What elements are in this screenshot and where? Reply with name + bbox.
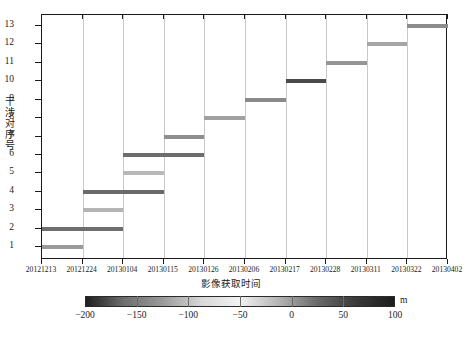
y-axis-tick-label: 5 (0, 167, 14, 177)
x-axis-tick-mark-top (41, 14, 42, 19)
y-axis-tick-label: 13 (0, 20, 14, 30)
gridline (204, 15, 205, 258)
interferogram-pair-bar (123, 171, 164, 175)
gridline (326, 15, 327, 258)
interferogram-pair-bar (326, 61, 367, 65)
interferogram-pair-bar (367, 42, 408, 46)
y-axis-tick-label: 3 (0, 204, 14, 214)
y-axis-tick-label: 11 (0, 57, 14, 67)
interferogram-pair-bar (42, 245, 83, 249)
interferogram-pair-bar (286, 79, 327, 83)
colorbar-unit-label: m (400, 295, 407, 306)
x-axis-tick-mark (447, 259, 448, 264)
x-axis-tick-mark-top (82, 14, 83, 19)
gridline (83, 15, 84, 258)
x-axis-tick-mark (406, 259, 407, 264)
colorbar-tick-mark (188, 296, 189, 307)
x-axis-tick-mark-top (366, 14, 367, 19)
gridline (123, 15, 124, 258)
colorbar-tick-mark (240, 296, 241, 307)
colorbar-tick-label: −200 (62, 310, 108, 321)
colorbar-tick-mark (137, 296, 138, 307)
x-axis-tick-mark-top (447, 14, 448, 19)
interferogram-pair-bar (123, 153, 204, 157)
x-axis-tick-mark (122, 259, 123, 264)
interferogram-pair-bar (407, 24, 448, 28)
x-axis-tick-mark (41, 259, 42, 264)
y-axis-tick-label: 2 (0, 223, 14, 233)
y-axis-tick-label: 4 (0, 186, 14, 196)
x-axis-tick-mark (163, 259, 164, 264)
x-axis-tick-mark (203, 259, 204, 264)
x-axis-tick-mark-top (122, 14, 123, 19)
y-axis-tick-label: 10 (0, 75, 14, 85)
x-axis-tick-mark (82, 259, 83, 264)
x-axis-tick-mark-top (244, 14, 245, 19)
y-axis-tick-label: 9 (0, 94, 14, 104)
interferogram-pair-bar (83, 190, 164, 194)
plot-area (41, 14, 447, 259)
interferogram-pair-bar (204, 116, 245, 120)
x-axis-tick-mark (285, 259, 286, 264)
interferogram-pair-bar (245, 98, 286, 102)
colorbar-tick-label: 100 (372, 310, 418, 321)
x-axis-tick-mark (325, 259, 326, 264)
gridline (407, 15, 408, 258)
colorbar-container (85, 296, 395, 307)
y-axis-tick-label: 12 (0, 38, 14, 48)
colorbar-tick-label: 0 (269, 310, 315, 321)
x-axis-tick-mark-top (163, 14, 164, 19)
y-axis-tick-label: 1 (0, 241, 14, 251)
x-axis-tick-mark-top (406, 14, 407, 19)
colorbar-tick-mark (343, 296, 344, 307)
y-axis-tick-label: 6 (0, 149, 14, 159)
colorbar-tick-label: −100 (165, 310, 211, 321)
colorbar-tick-label: −50 (217, 310, 263, 321)
y-axis-tick-label: 8 (0, 112, 14, 122)
colorbar-tick-label: 50 (320, 310, 366, 321)
x-axis-tick-mark-top (325, 14, 326, 19)
interferogram-pair-bar (164, 135, 205, 139)
interferogram-pair-bar (42, 227, 123, 231)
gridline (245, 15, 246, 258)
x-axis-tick-mark-top (285, 14, 286, 19)
x-axis-tick-mark (244, 259, 245, 264)
interferogram-pair-bar (83, 208, 124, 212)
x-axis-tick-mark-top (203, 14, 204, 19)
y-axis-title: 干 涉 对 序 号 (2, 96, 18, 151)
x-axis-title: 影像获取时间 (0, 279, 462, 290)
y-axis-tick-label: 7 (0, 131, 14, 141)
colorbar-tick-mark (292, 296, 293, 307)
x-axis-tick-label: 20130402 (417, 265, 467, 274)
colorbar-tick-label: −150 (114, 310, 160, 321)
x-axis-tick-mark (366, 259, 367, 264)
gridline (367, 15, 368, 258)
gridline (286, 15, 287, 258)
